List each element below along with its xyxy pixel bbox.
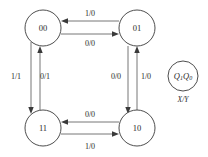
- legend-io-label: X/Y: [177, 95, 190, 104]
- state-diagram: 1/0 0/0 1/1 0/1 0/0: [0, 0, 208, 157]
- edge-label-00-to-11: 1/1: [11, 72, 21, 81]
- transition-11-to-10: 1/0: [61, 131, 119, 150]
- arrowhead-left-into-11: [61, 119, 68, 124]
- state-node-10[interactable]: 10: [119, 110, 155, 146]
- transition-00-to-01: 0/0: [61, 31, 119, 47]
- transition-01-to-10: 0/0: [111, 46, 131, 114]
- legend-q0-sub: 0: [189, 75, 192, 81]
- edge-label-11-to-10: 1/0: [85, 142, 95, 151]
- state-label-00: 00: [39, 23, 48, 33]
- edge-label-00-to-01: 0/0: [85, 39, 95, 48]
- arrowhead-right-into-10: [112, 131, 119, 136]
- edge-label-01-to-10: 0/0: [111, 72, 121, 81]
- arrowhead-left-into-00: [61, 18, 68, 23]
- transition-01-to-00: 1/0: [61, 9, 119, 24]
- arrowhead-right-into-01: [112, 31, 119, 36]
- state-label-11: 11: [39, 123, 47, 133]
- transition-11-to-00: 0/1: [37, 46, 50, 114]
- fsm-canvas: 1/0 0/0 1/1 0/1 0/0: [0, 0, 208, 157]
- arrowhead-up-into-01: [134, 46, 139, 53]
- legend: Q1Q0 X/Y: [168, 61, 198, 104]
- edge-label-10-to-01: 1/0: [141, 72, 151, 81]
- transition-10-to-11: 0/0: [61, 110, 119, 125]
- state-label-01: 01: [133, 23, 142, 33]
- edge-label-10-to-11: 0/0: [85, 110, 95, 119]
- state-label-10: 10: [133, 123, 142, 133]
- edge-label-11-to-00: 0/1: [40, 72, 50, 81]
- state-node-01[interactable]: 01: [119, 10, 155, 46]
- state-node-00[interactable]: 00: [25, 10, 61, 46]
- arrowhead-up-into-00: [37, 46, 42, 53]
- state-node-11[interactable]: 11: [25, 110, 61, 146]
- transition-00-to-11: 1/1: [11, 42, 34, 114]
- transition-10-to-01: 1/0: [134, 46, 151, 110]
- edge-label-01-to-00: 1/0: [85, 9, 95, 18]
